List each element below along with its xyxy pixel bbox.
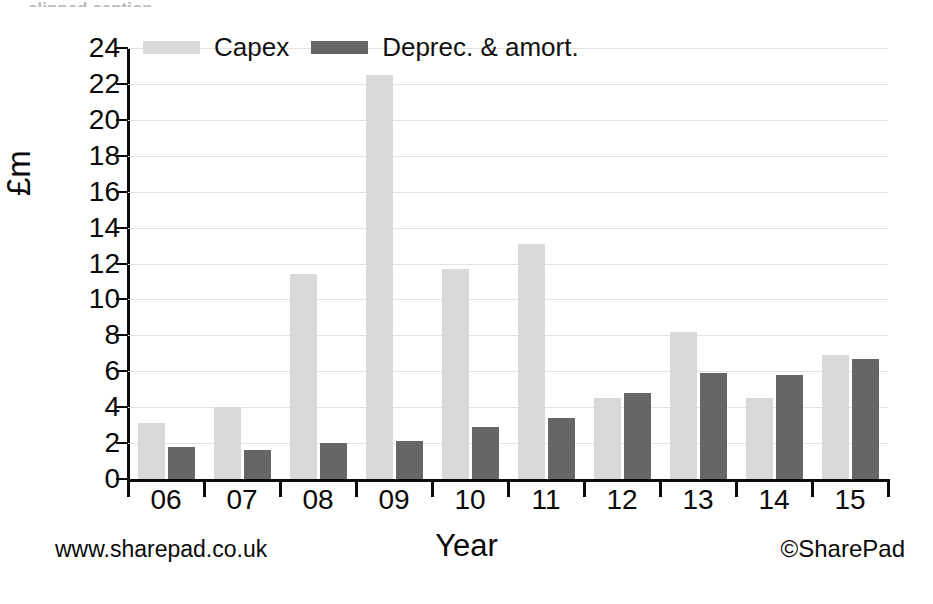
y-axis-tick <box>116 442 128 444</box>
bar-09-deprec-amort[interactable] <box>396 441 423 479</box>
bar-12-capex[interactable] <box>594 398 621 479</box>
legend-label-deprec-amort: Deprec. & amort. <box>382 34 579 60</box>
x-axis-tick-label-06: 06 <box>150 486 181 514</box>
bar-10-capex[interactable] <box>442 269 469 479</box>
gridline <box>128 228 888 229</box>
x-axis-tick-label-08: 08 <box>302 486 333 514</box>
x-axis-tick <box>127 479 130 497</box>
legend-swatch-deprec-amort <box>311 41 368 54</box>
x-axis-tick <box>735 479 738 497</box>
gridline <box>128 443 888 444</box>
bar-09-capex[interactable] <box>366 75 393 479</box>
clipped-caption-sliver: clipped caption <box>28 0 588 7</box>
y-axis-tick <box>116 298 128 300</box>
bar-14-capex[interactable] <box>746 398 773 479</box>
x-axis-tick <box>507 479 510 497</box>
y-axis-tick <box>116 370 128 372</box>
x-axis-tick <box>355 479 358 497</box>
gridline <box>128 299 888 300</box>
bar-11-capex[interactable] <box>518 244 545 479</box>
bar-08-deprec-amort[interactable] <box>320 443 347 479</box>
chart-legend: Capex Deprec. & amort. <box>143 34 601 60</box>
y-axis-tick <box>116 119 128 121</box>
x-axis-tick <box>431 479 434 497</box>
gridline <box>128 335 888 336</box>
bar-14-deprec-amort[interactable] <box>776 375 803 479</box>
bar-15-deprec-amort[interactable] <box>852 359 879 479</box>
bar-08-capex[interactable] <box>290 274 317 479</box>
y-axis-tick <box>116 406 128 408</box>
gridline <box>128 156 888 157</box>
bar-15-capex[interactable] <box>822 355 849 479</box>
y-axis-tick <box>116 191 128 193</box>
gridline <box>128 120 888 121</box>
y-axis-title: £m <box>2 150 35 196</box>
bar-06-capex[interactable] <box>138 423 165 479</box>
chart-container: clipped caption Capex Deprec. & amort. £… <box>0 0 933 604</box>
x-axis-tick <box>279 479 282 497</box>
y-axis-tick <box>116 47 128 49</box>
x-axis-tick-label-14: 14 <box>758 486 789 514</box>
footer-copyright: ©SharePad <box>781 537 905 561</box>
bar-06-deprec-amort[interactable] <box>168 447 195 479</box>
x-axis-tick <box>203 479 206 497</box>
x-axis-tick-label-10: 10 <box>454 486 485 514</box>
bar-12-deprec-amort[interactable] <box>624 393 651 479</box>
x-axis-tick <box>811 479 814 497</box>
legend-swatch-capex <box>143 41 200 54</box>
y-axis-tick <box>116 155 128 157</box>
legend-item-capex: Capex <box>143 34 311 60</box>
x-axis-tick-label-09: 09 <box>378 486 409 514</box>
bar-07-capex[interactable] <box>214 407 241 479</box>
x-axis-tick-label-15: 15 <box>834 486 865 514</box>
y-axis-tick <box>116 334 128 336</box>
y-axis-tick <box>116 83 128 85</box>
bar-13-capex[interactable] <box>670 332 697 479</box>
gridline <box>128 407 888 408</box>
x-axis-tick <box>887 479 890 497</box>
gridline <box>128 192 888 193</box>
plot-area <box>128 48 888 479</box>
x-axis-tick-label-11: 11 <box>531 486 560 514</box>
x-axis-tick <box>583 479 586 497</box>
gridline <box>128 264 888 265</box>
legend-item-deprec-amort: Deprec. & amort. <box>311 34 601 60</box>
bar-11-deprec-amort[interactable] <box>548 418 575 479</box>
x-axis-tick-label-07: 07 <box>226 486 257 514</box>
bar-10-deprec-amort[interactable] <box>472 427 499 479</box>
gridline <box>128 371 888 372</box>
y-axis-tick <box>116 227 128 229</box>
gridline <box>128 84 888 85</box>
legend-label-capex: Capex <box>214 34 289 60</box>
bar-07-deprec-amort[interactable] <box>244 450 271 479</box>
y-axis-tick-labels: 024681012141618202224 <box>62 48 120 479</box>
x-axis-tick-label-12: 12 <box>606 486 637 514</box>
y-axis-tick <box>116 263 128 265</box>
x-axis-tick <box>659 479 662 497</box>
bar-13-deprec-amort[interactable] <box>700 373 727 479</box>
x-axis-tick-label-13: 13 <box>682 486 713 514</box>
